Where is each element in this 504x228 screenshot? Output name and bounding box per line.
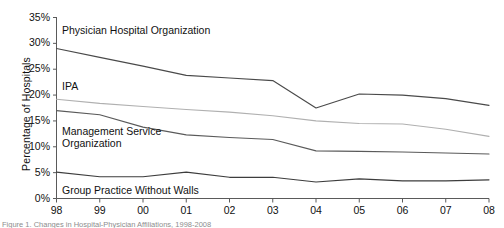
- x-tick-label-01: 01: [169, 205, 203, 216]
- series-label-group-practice-without-walls: Group Practice Without Walls: [62, 184, 199, 196]
- x-tick-label-05: 05: [342, 205, 376, 216]
- x-tick-label-07: 07: [429, 205, 463, 216]
- figure-caption: Figure 1. Changes in Hospital-Physician …: [2, 220, 422, 228]
- line-chart-figure: Percentage of Hospitals 35%30%25%20%15%1…: [0, 0, 504, 228]
- series-label-ipa: IPA: [62, 80, 78, 92]
- series-label-management-service-organization-line1: Management Service: [62, 125, 161, 137]
- series-label-management-service-organization-line2: Organization: [62, 137, 122, 149]
- x-tick-label-98: 98: [40, 205, 74, 216]
- x-tick-label-99: 99: [83, 205, 117, 216]
- x-tick-label-04: 04: [299, 205, 333, 216]
- x-tick-label-00: 00: [126, 205, 160, 216]
- x-tick-label-02: 02: [213, 205, 247, 216]
- x-tick-label-08: 08: [472, 205, 504, 216]
- x-tick-label-06: 06: [386, 205, 420, 216]
- series-label-physician-hospital-organization: Physician Hospital Organization: [62, 24, 210, 36]
- x-tick-label-03: 03: [256, 205, 290, 216]
